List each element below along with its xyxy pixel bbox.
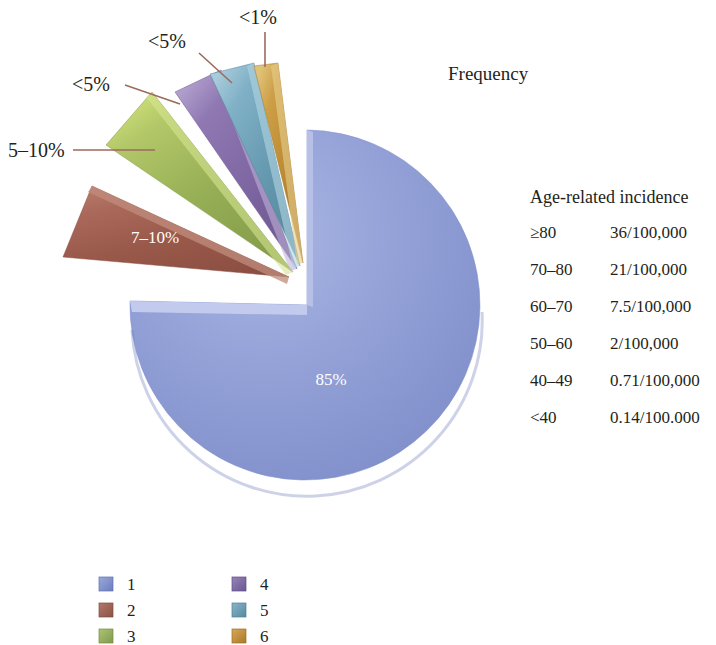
table-row: ≥80 36/100,000 <box>530 223 687 242</box>
legend-item-3: 3 <box>99 627 136 645</box>
incidence-table: Age-related incidence ≥80 36/100,000 70–… <box>530 187 700 427</box>
table-row: 40–49 0.71/100,000 <box>530 371 700 390</box>
table-row: 60–70 7.5/100,000 <box>530 297 691 316</box>
chart-canvas: 85% 7–10% <box>0 0 716 645</box>
legend-swatch-icon <box>99 603 113 617</box>
legend-label: 2 <box>127 601 136 620</box>
callout-label-lt5-purple: <5% <box>72 73 110 95</box>
chart-legend: 1 2 3 4 5 6 <box>99 575 269 645</box>
legend-swatch-icon <box>99 577 113 591</box>
callout-label-5-10: 5–10% <box>8 139 65 161</box>
legend-item-4: 4 <box>232 575 269 594</box>
slice-label-85: 85% <box>315 370 346 389</box>
legend-item-5: 5 <box>232 601 269 620</box>
legend-label: 5 <box>260 601 269 620</box>
legend-item-1: 1 <box>99 575 136 594</box>
rate-cell: 36/100,000 <box>610 223 687 242</box>
legend-swatch-icon <box>232 629 246 643</box>
callout-label-lt1: <1% <box>239 6 277 28</box>
legend-swatch-icon <box>232 577 246 591</box>
rate-cell: 7.5/100,000 <box>610 297 691 316</box>
rate-cell: 0.14/100.000 <box>610 408 700 427</box>
legend-label: 3 <box>127 627 136 645</box>
slice-label-7-10: 7–10% <box>131 228 179 247</box>
legend-label: 4 <box>260 575 269 594</box>
rate-cell: 21/100,000 <box>610 260 687 279</box>
age-cell: 60–70 <box>530 297 573 316</box>
chart-title: Frequency <box>448 63 529 84</box>
legend-swatch-icon <box>99 629 113 643</box>
table-row: <40 0.14/100.000 <box>530 408 700 427</box>
age-cell: 70–80 <box>530 260 573 279</box>
age-cell: ≥80 <box>530 223 556 242</box>
table-row: 70–80 21/100,000 <box>530 260 687 279</box>
incidence-table-header: Age-related incidence <box>530 187 688 207</box>
pie-chart-figure: 85% 7–10% <box>0 0 716 645</box>
age-cell: 50–60 <box>530 334 573 353</box>
table-row: 50–60 2/100,000 <box>530 334 678 353</box>
age-cell: <40 <box>530 408 557 427</box>
rate-cell: 0.71/100,000 <box>610 371 700 390</box>
rate-cell: 2/100,000 <box>610 334 678 353</box>
legend-item-6: 6 <box>232 627 269 645</box>
legend-swatch-icon <box>232 603 246 617</box>
callout-label-lt5-teal: <5% <box>148 30 186 52</box>
age-cell: 40–49 <box>530 371 573 390</box>
legend-label: 6 <box>260 627 269 645</box>
legend-label: 1 <box>127 575 136 594</box>
legend-item-2: 2 <box>99 601 136 620</box>
